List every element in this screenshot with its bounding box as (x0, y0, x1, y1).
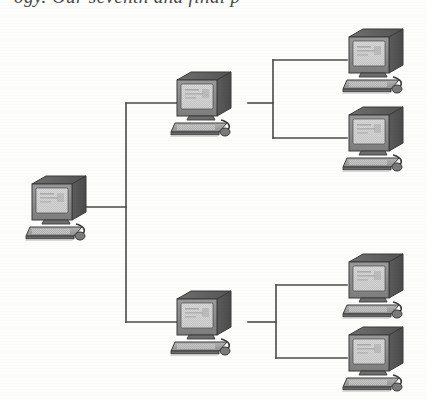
node-leaf-2-computer[interactable] (342, 107, 403, 172)
node-leaf-3-computer[interactable] (342, 254, 403, 319)
node-leaf-1-computer[interactable] (342, 29, 403, 94)
node-branch-upper-computer[interactable] (170, 72, 231, 137)
node-branch-lower-computer[interactable] (170, 291, 231, 356)
network-topology-diagram (0, 0, 427, 399)
scanned-page: ogy. Our seventh and final p (0, 0, 427, 399)
node-root-computer[interactable] (25, 176, 86, 241)
node-leaf-4-computer[interactable] (342, 327, 403, 392)
topology-canvas (0, 0, 427, 399)
topology-nodes (25, 29, 403, 392)
